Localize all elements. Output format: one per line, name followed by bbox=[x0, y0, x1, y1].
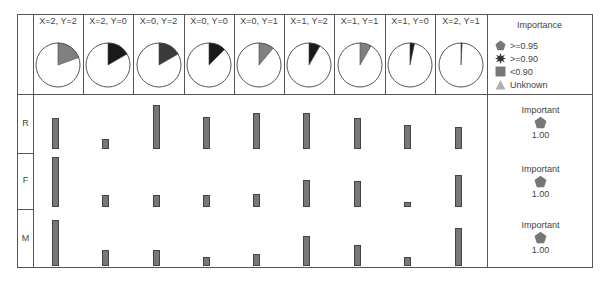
bar bbox=[52, 157, 59, 207]
bar bbox=[303, 113, 310, 149]
grid-vline bbox=[385, 15, 386, 94]
bar bbox=[404, 257, 411, 266]
column-title: X=0, Y=0 bbox=[184, 16, 234, 26]
column-title: X=0, Y=1 bbox=[234, 16, 284, 26]
column-title: X=0, Y=2 bbox=[133, 16, 184, 26]
grid-hline bbox=[18, 94, 592, 95]
column-title: X=2, Y=2 bbox=[33, 16, 83, 26]
pentagon-icon bbox=[534, 175, 547, 188]
legend-label: Unknown bbox=[510, 80, 548, 90]
grid-vline bbox=[133, 15, 134, 94]
triangle-icon bbox=[495, 79, 506, 90]
bar bbox=[102, 195, 109, 207]
bar bbox=[153, 250, 160, 266]
importance-indicator: Important1.00 bbox=[487, 105, 594, 140]
importance-label: Important bbox=[487, 220, 594, 230]
bar bbox=[203, 257, 210, 266]
bar bbox=[52, 118, 59, 149]
bar bbox=[153, 195, 160, 207]
bar bbox=[102, 139, 109, 149]
row-label: M bbox=[18, 233, 33, 243]
pie-chart-icon bbox=[85, 42, 131, 88]
bar bbox=[404, 125, 411, 149]
column-title: X=1, Y=1 bbox=[334, 16, 385, 26]
bar bbox=[253, 194, 260, 207]
grid-vline bbox=[284, 15, 285, 94]
bar bbox=[354, 118, 361, 149]
legend-item: >=0.95 bbox=[495, 40, 538, 51]
importance-value: 1.00 bbox=[487, 130, 594, 140]
row-label: R bbox=[18, 118, 33, 128]
grid-vline bbox=[234, 15, 235, 94]
feature-importance-grid: X=2, Y=2X=2, Y=0X=0, Y=2X=0, Y=0X=0, Y=1… bbox=[17, 14, 593, 268]
pie-chart-icon bbox=[236, 42, 282, 88]
importance-label: Important bbox=[487, 164, 594, 174]
grid-hline bbox=[18, 209, 33, 210]
importance-indicator: Important1.00 bbox=[487, 164, 594, 199]
pentagon-icon bbox=[495, 40, 506, 51]
bar bbox=[354, 181, 361, 207]
column-title: X=1, Y=0 bbox=[385, 16, 435, 26]
column-title: X=1, Y=2 bbox=[284, 16, 334, 26]
bar bbox=[354, 245, 361, 266]
legend-title: Importance bbox=[487, 20, 592, 30]
bar bbox=[203, 195, 210, 207]
square-icon bbox=[495, 66, 506, 77]
bar bbox=[404, 202, 411, 207]
pie-chart-icon bbox=[286, 42, 332, 88]
bar bbox=[253, 113, 260, 149]
bar bbox=[203, 117, 210, 149]
pie-chart-icon bbox=[337, 42, 383, 88]
pentagon-icon bbox=[534, 116, 547, 129]
pie-chart-icon bbox=[35, 42, 81, 88]
star-burst-icon bbox=[495, 53, 506, 64]
pie-chart-icon bbox=[438, 42, 484, 88]
legend-label: >=0.95 bbox=[510, 41, 538, 51]
importance-value: 1.00 bbox=[487, 189, 594, 199]
bar bbox=[253, 254, 260, 266]
bar bbox=[455, 175, 462, 207]
legend-item: >=0.90 bbox=[495, 53, 538, 64]
pie-chart-icon bbox=[186, 42, 232, 88]
bar bbox=[455, 228, 462, 266]
bar bbox=[455, 127, 462, 149]
importance-value: 1.00 bbox=[487, 245, 594, 255]
grid-vline bbox=[435, 15, 436, 94]
importance-indicator: Important1.00 bbox=[487, 220, 594, 255]
bar bbox=[153, 105, 160, 149]
legend-label: >=0.90 bbox=[510, 54, 538, 64]
grid-vline bbox=[33, 15, 34, 267]
row-label: F bbox=[18, 175, 33, 185]
pie-chart-icon bbox=[136, 42, 182, 88]
legend-label: <0.90 bbox=[510, 67, 533, 77]
bar bbox=[102, 250, 109, 266]
grid-vline bbox=[83, 15, 84, 94]
bar bbox=[303, 236, 310, 266]
bar bbox=[52, 220, 59, 266]
legend-item: Unknown bbox=[495, 79, 548, 90]
pentagon-icon bbox=[534, 231, 547, 244]
importance-label: Important bbox=[487, 105, 594, 115]
column-title: X=2, Y=1 bbox=[435, 16, 487, 26]
column-title: X=2, Y=0 bbox=[83, 16, 133, 26]
pie-chart-icon bbox=[387, 42, 433, 88]
grid-vline bbox=[184, 15, 185, 94]
legend-item: <0.90 bbox=[495, 66, 533, 77]
grid-vline bbox=[334, 15, 335, 94]
bar bbox=[303, 180, 310, 207]
grid-hline bbox=[18, 153, 33, 154]
